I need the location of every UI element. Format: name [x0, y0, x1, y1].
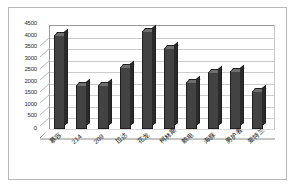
bars-layer — [49, 25, 275, 129]
bar-8[interactable] — [230, 71, 241, 129]
y-tick-label-3500: 3500 — [24, 43, 37, 49]
y-tick-label-4500: 4500 — [24, 20, 37, 26]
bar-5[interactable] — [164, 48, 175, 129]
bar-side-1 — [86, 79, 90, 126]
bar-2[interactable] — [98, 85, 109, 129]
bar-9[interactable] — [252, 91, 263, 129]
chart-frame: 4500 4000 3500 3000 2500 2000 1500 1000 … — [8, 7, 287, 180]
bar-side-3 — [130, 60, 134, 126]
y-tick-label-0: 0 — [34, 125, 37, 131]
y-axis-tick-labels: 4500 4000 3500 3000 2500 2000 1500 1000 … — [9, 20, 39, 142]
bar-3[interactable] — [120, 67, 131, 129]
bar-side-2 — [108, 79, 112, 126]
y-tick-label-2000: 2000 — [24, 78, 37, 84]
bar-7[interactable] — [208, 72, 219, 129]
plot-area — [40, 25, 275, 138]
bar-1[interactable] — [76, 85, 87, 129]
bar-6[interactable] — [186, 82, 197, 129]
y-tick-label-2500: 2500 — [24, 66, 37, 72]
bar-side-5 — [174, 42, 178, 126]
y-tick-label-500: 500 — [28, 112, 37, 118]
y-tick-label-3000: 3000 — [24, 55, 37, 61]
bar-side-8 — [240, 65, 244, 126]
bar-side-9 — [262, 85, 266, 126]
y-tick-label-1000: 1000 — [24, 101, 37, 107]
bar-side-6 — [196, 75, 200, 126]
bar-side-4 — [152, 24, 156, 126]
bar-side-0 — [64, 29, 68, 126]
bar-4[interactable] — [142, 31, 153, 129]
bar-side-7 — [218, 66, 222, 126]
bar-0[interactable] — [54, 35, 65, 129]
y-tick-label-4000: 4000 — [24, 32, 37, 38]
x-axis-tick-labels: 慕容 214 209 拉达 花龙 柯林斯 触电 海豚 男护者 爱特兰 — [40, 140, 285, 180]
y-tick-label-1500: 1500 — [24, 89, 37, 95]
